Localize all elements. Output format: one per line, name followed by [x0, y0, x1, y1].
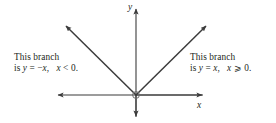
right-caption-line2: is y = x, x ⩾ 0. — [190, 63, 251, 74]
left-branch-caption: This branch is y = −x, x < 0. — [14, 52, 78, 74]
left-caption-condition: < 0. — [61, 63, 78, 73]
left-caption-line1: This branch — [14, 52, 78, 63]
right-branch-caption: This branch is y = x, x ⩾ 0. — [190, 52, 251, 74]
left-caption-equals: = − — [27, 63, 43, 73]
left-caption-comma: , — [47, 63, 57, 73]
right-caption-prefix: is — [190, 63, 199, 73]
right-caption-comma: , — [218, 63, 228, 73]
left-caption-prefix: is — [14, 63, 23, 73]
x-axis-label: x — [197, 100, 201, 110]
right-caption-line1: This branch — [190, 52, 251, 63]
y-axis-label: y — [128, 2, 132, 12]
right-caption-condition: ⩾ 0. — [231, 63, 251, 73]
left-caption-line2: is y = −x, x < 0. — [14, 63, 78, 74]
right-caption-equals: = — [203, 63, 213, 73]
absolute-value-graph-figure: This branch is y = −x, x < 0. This branc… — [0, 0, 276, 123]
